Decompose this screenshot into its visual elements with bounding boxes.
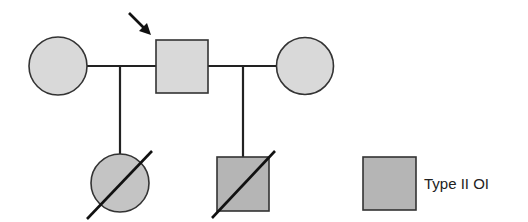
legend-label: Type II OI — [424, 175, 489, 192]
female-individual-I-1 — [29, 37, 87, 95]
legend-swatch-square — [363, 157, 416, 210]
male-proband-I-2 — [156, 40, 208, 93]
female-individual-I-3 — [277, 38, 334, 95]
proband-arrow-icon — [129, 13, 151, 35]
